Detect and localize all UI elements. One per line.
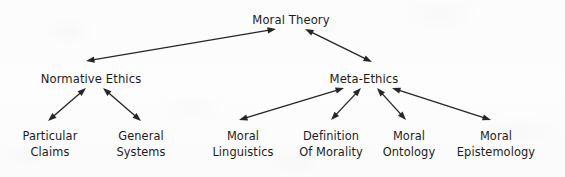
node-general-systems: GeneralSystems <box>116 128 165 160</box>
arrowhead-end-icon <box>482 114 491 120</box>
node-label-line: Claims <box>23 144 78 160</box>
edge-shaft <box>397 90 486 119</box>
node-label-line: Of Morality <box>299 144 363 160</box>
edge-moral-theory-meta-ethics <box>305 29 372 62</box>
arrowhead-end-icon <box>363 55 372 62</box>
edge-meta-ethics-moral-linguistics <box>239 88 344 121</box>
edge-shaft <box>52 91 82 117</box>
edge-meta-ethics-moral-ontology <box>377 88 406 120</box>
node-meta-ethics: Meta-Ethics <box>330 71 399 87</box>
node-label-line: Moral <box>383 128 436 144</box>
arrowhead-end-icon <box>86 57 95 63</box>
node-label-line: Ontology <box>383 144 436 160</box>
node-definition-of-morality: DefinitionOf Morality <box>299 128 363 160</box>
node-normative-ethics: Normative Ethics <box>41 71 142 87</box>
edge-shaft <box>310 31 368 59</box>
node-moral-ontology: MoralOntology <box>383 128 436 160</box>
node-label-line: Moral <box>457 128 535 144</box>
node-label-line: Epistemology <box>457 144 535 160</box>
node-moral-theory: Moral Theory <box>252 12 329 28</box>
arrowhead-start-icon <box>392 88 401 94</box>
edge-moral-theory-normative-ethics <box>86 27 276 62</box>
node-label-line: Normative Ethics <box>41 71 142 87</box>
edge-shaft <box>335 92 358 116</box>
arrowhead-end-icon <box>239 115 248 121</box>
node-label-line: General <box>116 128 165 144</box>
node-label-line: Linguistics <box>212 144 273 160</box>
node-label-line: Definition <box>299 128 363 144</box>
edge-shaft <box>381 92 403 116</box>
node-label-line: Moral Theory <box>252 12 329 28</box>
diagram-canvas: Moral TheoryNormative EthicsMeta-EthicsP… <box>0 0 565 177</box>
edge-meta-ethics-moral-epistemology <box>392 88 491 121</box>
node-label-line: Systems <box>116 144 165 160</box>
edge-normative-ethics-particular-claims <box>48 88 86 121</box>
edge-shaft <box>244 90 339 119</box>
arrowhead-start-icon <box>335 88 344 94</box>
edge-shaft <box>91 30 271 60</box>
arrowhead-start-icon <box>305 29 314 36</box>
node-label-line: Meta-Ethics <box>330 71 399 87</box>
node-label-line: Moral <box>212 128 273 144</box>
node-label-line: Particular <box>23 128 78 144</box>
node-moral-linguistics: MoralLinguistics <box>212 128 273 160</box>
edge-meta-ethics-definition-of-morality <box>331 88 361 120</box>
node-moral-epistemology: MoralEpistemology <box>457 128 535 160</box>
node-particular-claims: ParticularClaims <box>23 128 78 160</box>
edge-shaft <box>107 91 137 117</box>
edge-normative-ethics-general-systems <box>103 88 141 121</box>
